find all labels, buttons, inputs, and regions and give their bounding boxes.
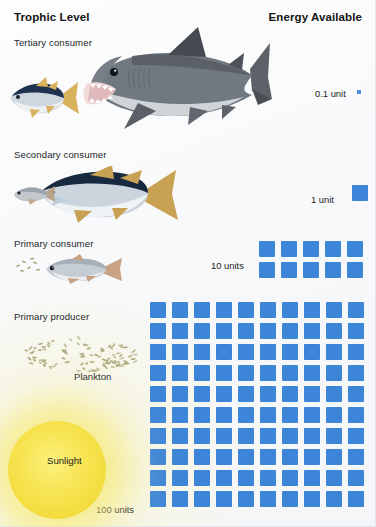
energy-unit-square bbox=[282, 491, 298, 507]
energy-unit-square bbox=[260, 323, 276, 339]
label-primary-consumer: Primary consumer bbox=[14, 238, 93, 249]
energy-unit-square bbox=[304, 386, 320, 402]
energy-unit-square bbox=[260, 428, 276, 444]
energy-unit-square bbox=[282, 428, 298, 444]
shark-illustration bbox=[72, 25, 272, 143]
energy-unit-square bbox=[260, 407, 276, 423]
label-primary-producer: Primary producer bbox=[14, 311, 89, 322]
energy-unit-square bbox=[260, 491, 276, 507]
energy-unit-square bbox=[326, 344, 342, 360]
energy-unit-square bbox=[348, 470, 364, 486]
energy-unit-square bbox=[304, 344, 320, 360]
energy-unit-square bbox=[325, 262, 341, 278]
energy-unit-square bbox=[216, 344, 232, 360]
label-secondary-consumer: Secondary consumer bbox=[14, 149, 106, 160]
energy-grid-primary-producer bbox=[150, 302, 364, 507]
energy-unit-square bbox=[282, 470, 298, 486]
energy-unit-square bbox=[150, 323, 166, 339]
energy-unit-square bbox=[194, 323, 210, 339]
energy-unit-square bbox=[326, 407, 342, 423]
energy-unit-square bbox=[194, 470, 210, 486]
energy-unit-square bbox=[282, 407, 298, 423]
energy-label-secondary: 1 unit bbox=[311, 194, 334, 205]
energy-unit-square bbox=[150, 365, 166, 381]
energy-unit-square bbox=[326, 428, 342, 444]
energy-unit-square bbox=[216, 470, 232, 486]
energy-unit-square bbox=[238, 344, 254, 360]
energy-unit-square bbox=[238, 491, 254, 507]
energy-unit-square bbox=[194, 428, 210, 444]
energy-unit-square bbox=[260, 302, 276, 318]
energy-unit-square bbox=[172, 344, 188, 360]
tuna-illustration-tertiary-row bbox=[2, 76, 80, 120]
energy-unit-square bbox=[348, 449, 364, 465]
energy-unit-square bbox=[194, 449, 210, 465]
energy-unit-square bbox=[216, 428, 232, 444]
energy-unit-square bbox=[304, 491, 320, 507]
energy-label-primary-producer: 100 units bbox=[96, 504, 134, 515]
energy-unit-square bbox=[260, 449, 276, 465]
energy-unit-square bbox=[348, 365, 364, 381]
energy-unit-square bbox=[238, 428, 254, 444]
energy-unit-square bbox=[238, 449, 254, 465]
energy-unit-square bbox=[194, 365, 210, 381]
energy-unit-square bbox=[172, 491, 188, 507]
energy-unit-square bbox=[238, 470, 254, 486]
energy-unit-square bbox=[194, 386, 210, 402]
energy-unit-square bbox=[194, 407, 210, 423]
plankton-specks-primary-consumer bbox=[14, 256, 44, 276]
energy-unit-square bbox=[281, 262, 297, 278]
energy-unit-square bbox=[238, 302, 254, 318]
energy-unit-square bbox=[259, 241, 275, 257]
energy-grid-primary-consumer bbox=[259, 241, 363, 278]
energy-unit-square bbox=[238, 365, 254, 381]
energy-unit-square bbox=[194, 302, 210, 318]
energy-unit-square bbox=[238, 407, 254, 423]
energy-unit-square bbox=[282, 365, 298, 381]
prey-fish-illustration-secondary bbox=[8, 182, 56, 206]
energy-label-primary-consumer: 10 units bbox=[211, 260, 244, 271]
energy-unit-square bbox=[326, 302, 342, 318]
energy-unit-square bbox=[304, 470, 320, 486]
energy-unit-square bbox=[303, 262, 319, 278]
energy-unit-square bbox=[260, 344, 276, 360]
sun-icon bbox=[8, 421, 106, 519]
energy-unit-square bbox=[259, 262, 275, 278]
energy-unit-square bbox=[150, 470, 166, 486]
energy-square-secondary bbox=[352, 185, 368, 201]
energy-unit-square bbox=[303, 241, 319, 257]
energy-unit-square bbox=[304, 407, 320, 423]
energy-unit-square bbox=[326, 449, 342, 465]
energy-unit-square bbox=[216, 386, 232, 402]
energy-unit-square bbox=[282, 302, 298, 318]
energy-unit-square bbox=[194, 344, 210, 360]
energy-unit-square bbox=[238, 386, 254, 402]
energy-unit-square bbox=[347, 241, 363, 257]
energy-unit-square bbox=[260, 365, 276, 381]
energy-unit-square bbox=[348, 302, 364, 318]
energy-unit-square bbox=[348, 386, 364, 402]
energy-unit-square bbox=[347, 262, 363, 278]
energy-available-header: Energy Available bbox=[269, 11, 362, 23]
energy-unit-square bbox=[260, 386, 276, 402]
energy-unit-square bbox=[348, 491, 364, 507]
energy-unit-square bbox=[238, 323, 254, 339]
small-fish-illustration-primary-consumer bbox=[38, 253, 124, 285]
label-sunlight: Sunlight bbox=[47, 455, 82, 466]
energy-unit-square bbox=[172, 365, 188, 381]
energy-unit-square bbox=[304, 302, 320, 318]
energy-unit-square bbox=[304, 428, 320, 444]
energy-unit-square bbox=[194, 491, 210, 507]
energy-unit-square bbox=[326, 470, 342, 486]
energy-unit-square bbox=[326, 491, 342, 507]
energy-pyramid-figure: Trophic Level Energy Available Tertiary … bbox=[0, 0, 376, 527]
energy-unit-square bbox=[282, 386, 298, 402]
trophic-level-header: Trophic Level bbox=[14, 11, 89, 23]
energy-label-tertiary: 0.1 unit bbox=[315, 88, 346, 99]
energy-unit-square bbox=[150, 407, 166, 423]
energy-unit-square bbox=[348, 323, 364, 339]
energy-unit-square bbox=[282, 323, 298, 339]
energy-unit-square bbox=[150, 428, 166, 444]
energy-unit-square bbox=[325, 241, 341, 257]
energy-unit-square bbox=[172, 407, 188, 423]
